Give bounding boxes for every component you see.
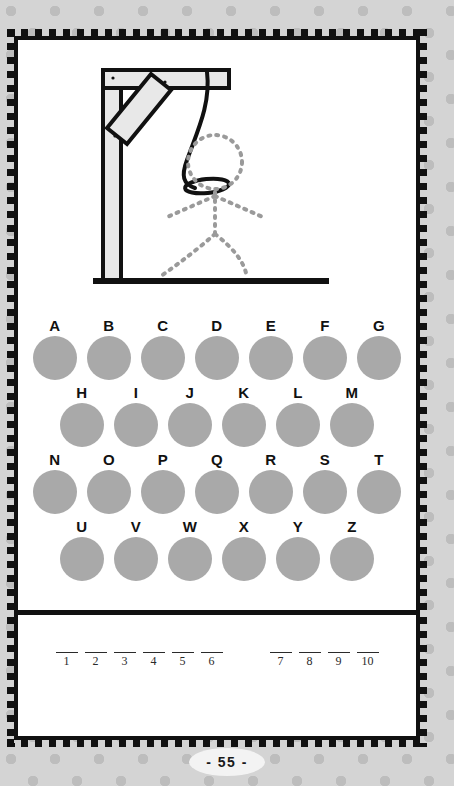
answer-num-5: 5 [180, 654, 186, 668]
letter-label-a: A [49, 318, 60, 334]
letter-circle-d[interactable] [195, 336, 239, 380]
letter-cell-s[interactable]: S [298, 452, 352, 514]
letter-cell-j[interactable]: J [163, 385, 217, 447]
answer-blank-9[interactable]: 9 [324, 652, 353, 668]
letter-cell-q[interactable]: Q [190, 452, 244, 514]
letter-cell-p[interactable]: P [136, 452, 190, 514]
letter-circle-w[interactable] [168, 537, 212, 581]
answer-line-5[interactable] [172, 652, 194, 653]
letter-circle-p[interactable] [141, 470, 185, 514]
letter-label-j: J [186, 385, 195, 401]
letter-cell-a[interactable]: A [28, 318, 82, 380]
letter-circle-i[interactable] [114, 403, 158, 447]
letter-circle-c[interactable] [141, 336, 185, 380]
letter-label-h: H [76, 385, 87, 401]
letter-circle-j[interactable] [168, 403, 212, 447]
letter-circle-s[interactable] [303, 470, 347, 514]
answer-blank-6[interactable]: 6 [197, 652, 226, 668]
letter-circle-o[interactable] [87, 470, 131, 514]
letter-circle-u[interactable] [60, 537, 104, 581]
answer-line-7[interactable] [270, 652, 292, 653]
alphabet-row-4: U V W X Y Z [18, 519, 416, 581]
letter-label-w: W [183, 519, 198, 535]
letter-circle-l[interactable] [276, 403, 320, 447]
answer-line-8[interactable] [299, 652, 321, 653]
answer-line-9[interactable] [328, 652, 350, 653]
letter-cell-l[interactable]: L [271, 385, 325, 447]
letter-cell-b[interactable]: B [82, 318, 136, 380]
letter-circle-k[interactable] [222, 403, 266, 447]
alphabet-grid: A B C D E F G [18, 318, 416, 586]
letter-circle-f[interactable] [303, 336, 347, 380]
letter-label-v: V [131, 519, 142, 535]
letter-cell-w[interactable]: W [163, 519, 217, 581]
letter-cell-n[interactable]: N [28, 452, 82, 514]
answer-blank-1[interactable]: 1 [52, 652, 81, 668]
letter-cell-i[interactable]: I [109, 385, 163, 447]
letter-circle-g[interactable] [357, 336, 401, 380]
page-number-badge: - 55 - [189, 748, 265, 776]
answer-num-7: 7 [278, 654, 284, 668]
letter-cell-u[interactable]: U [55, 519, 109, 581]
letter-circle-a[interactable] [33, 336, 77, 380]
letter-cell-d[interactable]: D [190, 318, 244, 380]
answer-num-1: 1 [64, 654, 70, 668]
letter-cell-v[interactable]: V [109, 519, 163, 581]
answer-line-3[interactable] [114, 652, 136, 653]
letter-circle-h[interactable] [60, 403, 104, 447]
hangman-gallows-icon [87, 56, 347, 306]
letter-cell-c[interactable]: C [136, 318, 190, 380]
answer-blank-3[interactable]: 3 [110, 652, 139, 668]
letter-label-k: K [238, 385, 249, 401]
answer-blank-4[interactable]: 4 [139, 652, 168, 668]
answer-num-6: 6 [209, 654, 215, 668]
letter-circle-t[interactable] [357, 470, 401, 514]
letter-circle-x[interactable] [222, 537, 266, 581]
letter-cell-x[interactable]: X [217, 519, 271, 581]
answer-line-4[interactable] [143, 652, 165, 653]
letter-cell-z[interactable]: Z [325, 519, 379, 581]
answer-blank-8[interactable]: 8 [295, 652, 324, 668]
letter-label-c: C [157, 318, 168, 334]
letter-circle-q[interactable] [195, 470, 239, 514]
letter-circle-r[interactable] [249, 470, 293, 514]
letter-circle-z[interactable] [330, 537, 374, 581]
answer-line-1[interactable] [56, 652, 78, 653]
answer-blank-2[interactable]: 2 [81, 652, 110, 668]
letter-label-z: Z [347, 519, 357, 535]
letter-label-e: E [266, 318, 277, 334]
letter-label-q: Q [211, 452, 223, 468]
letter-circle-b[interactable] [87, 336, 131, 380]
letter-cell-f[interactable]: F [298, 318, 352, 380]
letter-label-p: P [158, 452, 169, 468]
answer-line-6[interactable] [201, 652, 223, 653]
letter-cell-o[interactable]: O [82, 452, 136, 514]
answer-num-3: 3 [122, 654, 128, 668]
letter-cell-h[interactable]: H [55, 385, 109, 447]
letter-circle-y[interactable] [276, 537, 320, 581]
answer-line-2[interactable] [85, 652, 107, 653]
letter-cell-g[interactable]: G [352, 318, 406, 380]
answer-num-9: 9 [336, 654, 342, 668]
letter-cell-e[interactable]: E [244, 318, 298, 380]
letter-circle-e[interactable] [249, 336, 293, 380]
letter-label-t: T [374, 452, 384, 468]
section-divider [14, 610, 420, 615]
answer-word-one: 1 2 3 4 5 6 [52, 652, 226, 668]
answer-blank-5[interactable]: 5 [168, 652, 197, 668]
alphabet-row-2: H I J K L M [18, 385, 416, 447]
answer-line-10[interactable] [357, 652, 379, 653]
letter-cell-r[interactable]: R [244, 452, 298, 514]
letter-cell-t[interactable]: T [352, 452, 406, 514]
letter-label-n: N [49, 452, 60, 468]
answer-blank-7[interactable]: 7 [266, 652, 295, 668]
letter-label-u: U [76, 519, 87, 535]
letter-circle-v[interactable] [114, 537, 158, 581]
letter-cell-k[interactable]: K [217, 385, 271, 447]
answer-blank-10[interactable]: 10 [353, 652, 382, 668]
answer-num-2: 2 [93, 654, 99, 668]
letter-cell-y[interactable]: Y [271, 519, 325, 581]
letter-circle-n[interactable] [33, 470, 77, 514]
letter-cell-m[interactable]: M [325, 385, 379, 447]
letter-circle-m[interactable] [330, 403, 374, 447]
